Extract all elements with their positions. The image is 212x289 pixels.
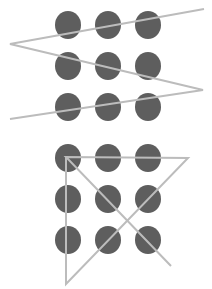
dot-r3-c1 bbox=[55, 226, 81, 254]
connecting-line-path bbox=[66, 157, 188, 284]
dot-r3-c1 bbox=[55, 93, 81, 121]
zigzag-puzzle bbox=[10, 9, 204, 121]
dot-r3-c2 bbox=[95, 93, 121, 121]
nine-dots-puzzle-diagram bbox=[0, 0, 212, 289]
dot-r2-c3 bbox=[135, 52, 161, 80]
dot-r2-c1 bbox=[55, 185, 81, 213]
dot-r1-c3 bbox=[135, 11, 161, 39]
triangle-puzzle bbox=[55, 144, 188, 284]
dot-r3-c3 bbox=[135, 226, 161, 254]
dot-grid bbox=[55, 144, 161, 254]
